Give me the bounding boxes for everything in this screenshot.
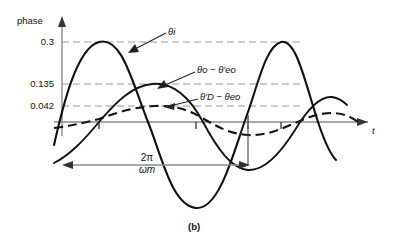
x-axis-arrowhead — [357, 118, 368, 126]
curve-label-theta-D-text: θ′D − θeo — [200, 91, 240, 102]
y-tick-label-0-042: 0.042 — [8, 101, 54, 111]
curve-label-theta-o-minus-theta-eo-prime: θo − θ′eo — [197, 65, 236, 75]
phase-plot-svg — [0, 0, 397, 246]
period-numerator: 2π — [117, 152, 177, 164]
x-axis-title: t — [372, 126, 375, 136]
curve-label-theta-D-prime-minus-theta-eo: θ′D − θeo — [200, 92, 240, 102]
figure-container: phase 0.3 0.135 0.042 θi θo − θ′eo θ′D −… — [0, 0, 397, 246]
period-annotation: 2π ωm — [117, 152, 177, 175]
y-axis-arrowhead — [58, 16, 66, 27]
period-denominator: ωm — [117, 164, 177, 176]
curve-label-theta-o-text: θo − θ′eo — [197, 64, 236, 75]
y-tick-label-0-135: 0.135 — [8, 79, 54, 89]
y-axis-title: phase — [17, 16, 43, 26]
curve-label-theta-i-text: θi — [168, 26, 175, 37]
leader-theta-i-arrowhead — [128, 44, 139, 53]
y-tick-label-0-3: 0.3 — [8, 37, 54, 47]
leader-theta-D-arrowhead — [164, 103, 175, 110]
figure-caption: (b) — [188, 222, 200, 232]
period-span-arrow-left — [62, 161, 73, 169]
curve-label-theta-i: θi — [168, 27, 175, 37]
